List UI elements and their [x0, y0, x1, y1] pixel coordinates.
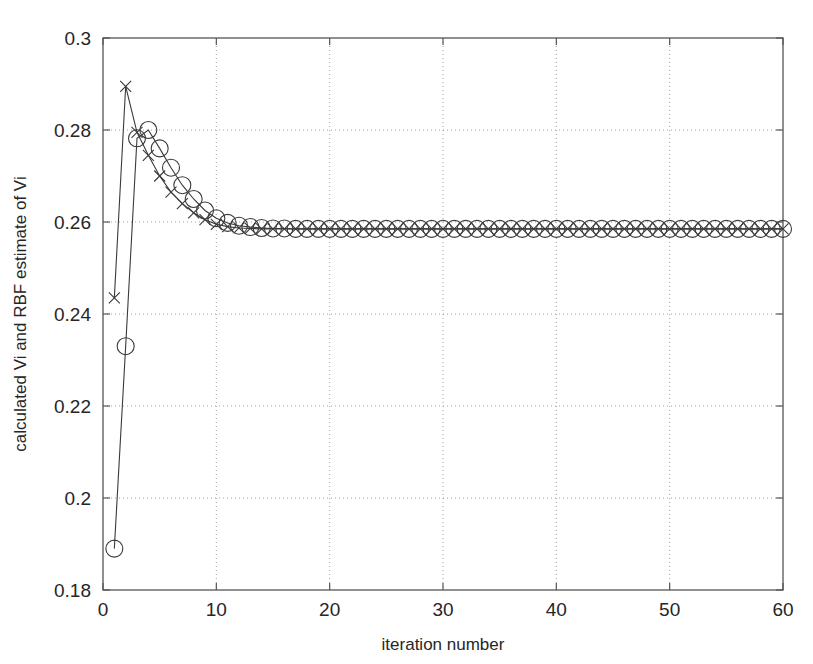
x-axis-title: iteration number — [382, 635, 505, 654]
x-tick-label: 30 — [432, 599, 453, 620]
y-tick-label: 0.2 — [65, 488, 91, 509]
data-series — [106, 81, 792, 557]
x-tick-label: 60 — [772, 599, 793, 620]
y-tick-label: 0.22 — [54, 396, 91, 417]
series-path — [114, 130, 783, 549]
x-tick-label: 40 — [546, 599, 567, 620]
y-tick-label: 0.24 — [54, 304, 91, 325]
y-tick-label: 0.3 — [65, 28, 91, 49]
x-tick-label: 0 — [98, 599, 109, 620]
y-axis-title: calculated Vi and RBF estimate of Vi — [11, 176, 30, 451]
x-tick-label: 50 — [659, 599, 680, 620]
y-tick-label: 0.26 — [54, 212, 91, 233]
chart-figure: 01020304050600.180.20.220.240.260.280.3 … — [0, 0, 813, 664]
y-tick-label: 0.18 — [54, 580, 91, 601]
tick-labels: 01020304050600.180.20.220.240.260.280.3 — [54, 28, 794, 620]
series-cross — [109, 81, 789, 304]
series-path — [114, 86, 783, 298]
plot-canvas: 01020304050600.180.20.220.240.260.280.3 … — [0, 0, 813, 664]
x-tick-label: 20 — [319, 599, 340, 620]
grid-lines — [103, 38, 783, 590]
series-circle — [106, 122, 792, 558]
y-tick-label: 0.28 — [54, 120, 91, 141]
x-tick-label: 10 — [206, 599, 227, 620]
